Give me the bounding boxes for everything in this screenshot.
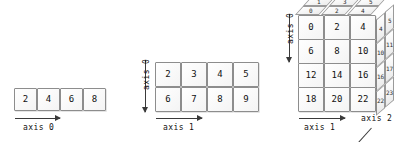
array-cell: 6 [298, 39, 324, 64]
array-cell: 6 [60, 88, 83, 111]
cube-side-cell-value: 22 [377, 96, 384, 103]
axis-2-label-3d: axis 2 [361, 114, 392, 123]
array-cell: 0 [298, 15, 324, 40]
array-cell: 8 [83, 88, 106, 111]
cube-side-cell-value: 23 [386, 88, 393, 95]
axis-0-arrow-1d [15, 118, 60, 119]
array-cell: 3 [181, 62, 207, 87]
cube-side-cell: 22 [376, 84, 385, 116]
cube-side-cell-value: 11 [386, 40, 393, 47]
array-cell: 4 [350, 15, 376, 40]
numpy-axes-diagram: 2 4 6 8 axis 0 2 3 4 5 6 7 8 9 axis 0 ax… [0, 0, 404, 142]
cube-top-cell-value: 2 [335, 7, 339, 14]
cube-top-cell-value: 5 [369, 0, 373, 5]
axis-1-arrow-3d [299, 118, 345, 119]
cube-side-cell-value: 16 [377, 72, 384, 79]
axis-1-label-3d: axis 1 [304, 123, 335, 132]
axis-2-arrow-3d [354, 128, 372, 142]
cube-side-cell-value: 10 [377, 48, 384, 55]
axis-0-label-3d: axis 0 [286, 13, 295, 44]
axis-0-label-2d: axis 0 [142, 59, 151, 90]
array-cell: 8 [324, 39, 350, 64]
array-cell: 5 [233, 62, 259, 87]
array-cell: 2 [324, 15, 350, 40]
array-cell: 14 [324, 63, 350, 88]
array-cell: 2 [14, 88, 37, 111]
cube-top-cell: 5 [355, 0, 387, 6]
axis-1-arrow-2d [156, 118, 202, 119]
cube-top-cell-value: 4 [361, 7, 365, 14]
cube-side-cell-value: 5 [388, 17, 392, 24]
array-cell: 6 [155, 87, 181, 112]
cube-top-cell-value: 1 [317, 0, 321, 5]
array-cell: 4 [207, 62, 233, 87]
array-cell: 12 [298, 63, 324, 88]
cube-side-cell: 23 [385, 76, 394, 108]
axis-0-label-1d: axis 0 [23, 123, 54, 132]
array-cell: 20 [324, 87, 350, 112]
cube-top-cell-value: 3 [343, 0, 347, 5]
array-cell: 2 [155, 62, 181, 87]
array-cell: 16 [350, 63, 376, 88]
array-cell: 4 [37, 88, 60, 111]
cube-side-cell-value: 17 [386, 64, 393, 71]
cube-top-cell-value: 0 [309, 7, 313, 14]
array-cell: 9 [233, 87, 259, 112]
array-cell: 18 [298, 87, 324, 112]
array-cell: 22 [350, 87, 376, 112]
array-cell: 10 [350, 39, 376, 64]
three-dimensional-array-panel: 0 1 2 3 4 5 4 5 10 11 16 17 22 23 0 2 4 … [275, 2, 404, 142]
array-cell: 7 [181, 87, 207, 112]
cube-side-cell-value: 4 [379, 25, 383, 32]
axis-1-label-2d: axis 1 [163, 123, 194, 132]
array-cell: 8 [207, 87, 233, 112]
